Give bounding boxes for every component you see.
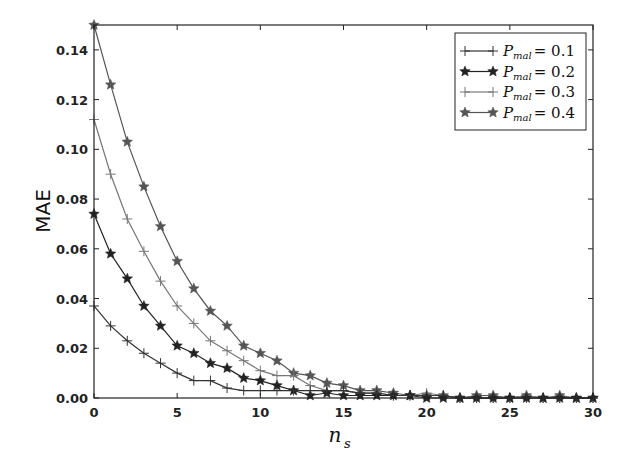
y-tick-label: 0.06	[56, 242, 88, 257]
star-marker	[139, 300, 149, 310]
x-tick-label: 10	[251, 405, 269, 420]
star-marker	[305, 370, 315, 380]
plus-marker	[139, 348, 149, 358]
plus-marker	[222, 383, 232, 393]
x-axis-label-subscript: s	[344, 436, 351, 451]
y-tick-label: 0.14	[56, 43, 88, 58]
x-tick-label: 30	[584, 405, 602, 420]
plus-marker	[172, 368, 182, 378]
star-marker	[222, 363, 232, 373]
plus-marker	[156, 276, 166, 286]
star-marker	[105, 79, 115, 89]
star-marker	[189, 283, 199, 293]
plus-marker	[239, 386, 249, 396]
x-tick-label: 25	[501, 405, 519, 420]
star-marker	[189, 348, 199, 358]
y-tick-label: 0.04	[56, 292, 88, 307]
star-marker	[172, 256, 182, 266]
legend-label: Pmal= 0.3	[502, 83, 575, 102]
y-tick-label: 0.00	[56, 391, 88, 406]
plus-marker	[222, 346, 232, 356]
star-marker	[238, 373, 248, 383]
plus-marker	[272, 371, 282, 381]
star-marker	[255, 375, 265, 385]
mae-line-chart: 0510152025300.000.020.040.060.080.100.12…	[0, 0, 627, 463]
x-axis-label-text: n	[329, 423, 342, 447]
star-marker	[205, 358, 215, 368]
series-p-mal-0-1	[89, 301, 598, 403]
y-tick-label: 0.08	[56, 192, 88, 207]
y-tick-label: 0.12	[56, 93, 88, 108]
star-marker	[105, 248, 115, 258]
star-marker	[122, 273, 132, 283]
plus-marker	[106, 169, 116, 179]
x-tick-label: 5	[173, 405, 182, 420]
legend: Pmal= 0.1Pmal= 0.2Pmal= 0.3Pmal= 0.4	[455, 33, 586, 130]
star-marker	[155, 221, 165, 231]
plus-marker	[289, 386, 299, 396]
plus-marker	[438, 391, 448, 401]
legend-label: Pmal= 0.4	[502, 104, 575, 123]
plus-marker	[139, 246, 149, 256]
star-marker	[122, 136, 132, 146]
plus-marker	[239, 356, 249, 366]
x-tick-label: 15	[334, 405, 352, 420]
legend-label: Pmal= 0.1	[502, 42, 575, 61]
y-tick-label: 0.02	[56, 341, 88, 356]
plus-marker	[255, 366, 265, 376]
star-marker	[139, 181, 149, 191]
x-axis-label: ns	[329, 423, 351, 451]
legend-label: Pmal= 0.2	[502, 63, 575, 82]
x-tick-label: 0	[89, 405, 98, 420]
plus-marker	[189, 376, 199, 386]
series-p-mal-0-3	[89, 114, 598, 403]
star-marker	[255, 348, 265, 358]
y-tick-label: 0.10	[56, 142, 88, 157]
x-tick-label: 20	[418, 405, 436, 420]
series-p-mal-0-2	[89, 208, 598, 402]
plus-marker	[156, 358, 166, 368]
plus-marker	[405, 391, 415, 401]
plus-marker	[122, 214, 132, 224]
plus-marker	[205, 376, 215, 386]
y-axis-label: MAE	[31, 189, 55, 233]
